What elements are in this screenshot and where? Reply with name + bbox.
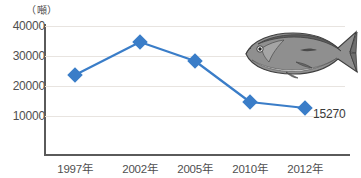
data-point-label: 15270 xyxy=(313,107,345,121)
y-tick-label: 30000 xyxy=(1,49,45,63)
x-tick-label: 1997年 xyxy=(57,160,93,176)
source-note xyxy=(232,169,360,177)
x-tick-label: 2005年 xyxy=(177,160,213,176)
x-tick-label: 2002年 xyxy=(122,160,158,176)
y-axis: 40000 30000 20000 10000 xyxy=(0,0,45,178)
y-tick-label: 20000 xyxy=(1,79,45,93)
y-tick-label: 10000 xyxy=(1,109,45,123)
tuna-fish-icon xyxy=(238,24,358,82)
line-chart: （噸） 40000 30000 20000 10000 15270 1997年 … xyxy=(0,0,361,178)
x-axis-line xyxy=(44,154,350,156)
y-tick-label: 40000 xyxy=(1,19,45,33)
